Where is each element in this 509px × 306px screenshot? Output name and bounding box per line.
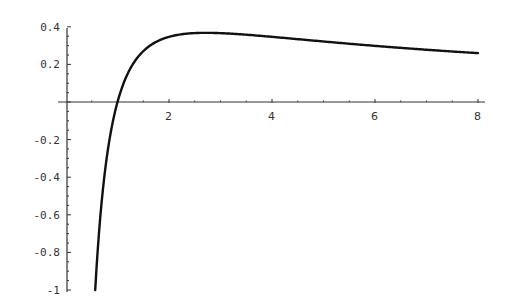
x-tick-label: 4 bbox=[268, 110, 275, 123]
y-tick-label: -0.6 bbox=[34, 209, 61, 222]
x-tick-label: 8 bbox=[474, 110, 481, 123]
y-tick-label: -0.4 bbox=[34, 171, 61, 184]
function-curve bbox=[95, 33, 478, 290]
y-tick-label: 0.4 bbox=[40, 21, 60, 34]
y-tick-label: 0.2 bbox=[40, 58, 60, 71]
y-tick-label: -0.2 bbox=[34, 134, 61, 147]
tick-labels: 24680.40.2-0.2-0.4-0.6-0.8-1 bbox=[34, 21, 482, 297]
line-chart: 24680.40.2-0.2-0.4-0.6-0.8-1 bbox=[0, 0, 509, 306]
y-tick-label: -0.8 bbox=[34, 246, 61, 259]
y-tick-label: -1 bbox=[47, 284, 60, 297]
x-tick-label: 2 bbox=[165, 110, 172, 123]
axes bbox=[58, 28, 485, 292]
x-tick-label: 6 bbox=[371, 110, 378, 123]
ticks bbox=[67, 27, 478, 290]
